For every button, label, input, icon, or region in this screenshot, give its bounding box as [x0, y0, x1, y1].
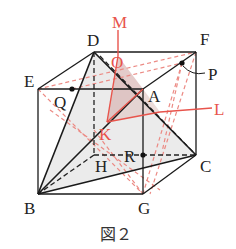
figure-caption: 図２ [100, 225, 132, 244]
label-q: Q [54, 93, 66, 112]
label-l: L [214, 100, 224, 119]
label-c: C [200, 157, 211, 176]
label-d: D [87, 31, 99, 50]
label-b: B [24, 199, 35, 218]
label-g: G [138, 199, 150, 218]
p-leader-line [183, 66, 205, 74]
label-f: F [200, 30, 209, 49]
point-q [69, 86, 74, 91]
cube-diagram: D E F A P Q H R C B G M O K L 図２ [0, 0, 236, 249]
label-p: P [208, 65, 217, 84]
point-p [179, 60, 184, 65]
label-a: A [148, 87, 161, 106]
label-h: H [95, 157, 107, 176]
label-r: R [124, 147, 136, 166]
label-m: M [112, 13, 127, 32]
point-r [140, 152, 145, 157]
label-k: K [99, 125, 112, 144]
label-e: E [24, 72, 34, 91]
label-o: O [111, 53, 123, 72]
